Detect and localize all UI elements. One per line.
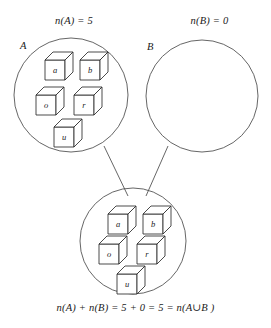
union-cube-b: b xyxy=(143,206,171,234)
svg-text:o: o xyxy=(44,100,48,110)
svg-text:a: a xyxy=(116,219,120,229)
cube-u: u xyxy=(54,119,82,147)
svg-text:b: b xyxy=(88,65,92,75)
connector-line-b-to-union xyxy=(146,146,168,196)
set-union-diagram: n(A) = 5 n(B) = 0 A B a b xyxy=(0,0,271,328)
svg-text:b: b xyxy=(151,219,155,229)
svg-text:u: u xyxy=(62,132,66,142)
cube-b: b xyxy=(80,52,108,80)
svg-text:u: u xyxy=(125,279,129,289)
union-cube-u: u xyxy=(117,266,145,294)
set-b-circle xyxy=(146,40,258,152)
cube-a: a xyxy=(45,52,73,80)
union-cube-r: r xyxy=(137,236,165,264)
svg-text:a: a xyxy=(53,65,57,75)
union-cube-a: a xyxy=(108,206,136,234)
union-equation-caption: n(A) + n(B) = 5 + 0 = 5 = n(A∪B ) xyxy=(0,301,271,313)
cube-r: r xyxy=(74,87,102,115)
set-union-elements: a b o r u xyxy=(99,206,171,294)
cube-o: o xyxy=(36,87,64,115)
svg-text:o: o xyxy=(107,249,111,259)
set-a-elements: a b o r u xyxy=(36,52,108,147)
union-cube-o: o xyxy=(99,236,127,264)
